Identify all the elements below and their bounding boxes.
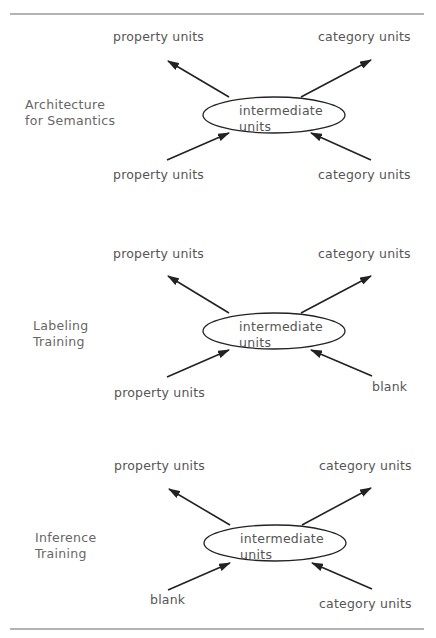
node-label-line1: intermediate bbox=[239, 319, 323, 335]
label-bottom-right: blank bbox=[372, 379, 407, 395]
label-bottom-right: category units bbox=[319, 596, 412, 612]
arrow-from-blank bbox=[311, 350, 372, 376]
panel-3-title: Inference Training bbox=[35, 530, 96, 562]
arrow-from-property-units bbox=[167, 350, 229, 377]
label-bottom-left: blank bbox=[150, 592, 185, 608]
arrow-to-category-units bbox=[301, 276, 371, 313]
panel-1-title: Architecture for Semantics bbox=[25, 97, 115, 129]
node-label-line1: intermediate bbox=[239, 103, 323, 119]
arrow-to-property-units bbox=[168, 61, 229, 97]
label-bottom-left: property units bbox=[113, 167, 204, 183]
label-top-left: property units bbox=[113, 29, 204, 45]
node-label-line2: units bbox=[239, 335, 271, 351]
node-label-line1: intermediate bbox=[240, 531, 324, 547]
panel-title-line: for Semantics bbox=[25, 113, 115, 129]
node-label-line2: units bbox=[240, 547, 272, 563]
arrow-from-property-units bbox=[167, 133, 229, 160]
label-bottom-left: property units bbox=[114, 385, 205, 401]
arrow-to-category-units bbox=[301, 60, 371, 97]
panel-title-line: Labeling bbox=[33, 318, 88, 334]
panel-title-line: Training bbox=[33, 334, 88, 350]
panel-title-line: Inference bbox=[35, 530, 96, 546]
panel-title-line: Training bbox=[35, 546, 96, 562]
label-top-left: property units bbox=[113, 246, 204, 262]
arrow-to-property-units bbox=[169, 489, 230, 525]
panel-title-line: Architecture bbox=[25, 97, 115, 113]
label-top-right: category units bbox=[318, 246, 411, 262]
label-top-left: property units bbox=[114, 458, 205, 474]
label-bottom-right: category units bbox=[318, 167, 411, 183]
arrow-to-property-units bbox=[168, 276, 229, 313]
arrow-from-category-units bbox=[312, 563, 372, 589]
label-top-right: category units bbox=[318, 29, 411, 45]
panel-2-title: Labeling Training bbox=[33, 318, 88, 350]
node-label-line2: units bbox=[239, 119, 271, 135]
arrow-to-category-units bbox=[302, 488, 371, 525]
label-top-right: category units bbox=[319, 458, 412, 474]
arrow-from-category-units bbox=[311, 133, 371, 160]
arrow-from-blank bbox=[168, 563, 230, 590]
